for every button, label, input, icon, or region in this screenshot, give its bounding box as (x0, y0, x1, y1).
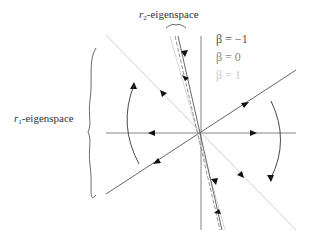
r1-eigenspace-label: r1-eigenspace (14, 112, 74, 126)
arrowheads (130, 50, 274, 214)
legend-item-beta-1: β = 1 (216, 66, 248, 84)
right-rotation-arc (271, 101, 281, 178)
legend: β = −1 β = 0 β = 1 (216, 30, 248, 84)
r2-brace (166, 24, 186, 28)
legend-item-beta-0: β = 0 (216, 48, 248, 66)
r1-brace (88, 48, 96, 198)
left-rotation-arc (127, 85, 139, 164)
legend-item-beta-neg1: β = −1 (216, 30, 248, 48)
r2-eigenspace-label: r2-eigenspace (139, 8, 199, 22)
r2-text: -eigenspace (147, 8, 199, 20)
r1-text: -eigenspace (22, 112, 74, 124)
